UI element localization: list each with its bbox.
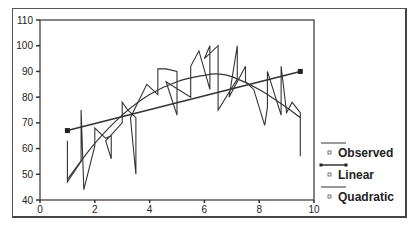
linear-marker <box>65 128 70 133</box>
x-tick-label: 8 <box>256 204 262 215</box>
chart-plot: 4050607080901001100246810 ObservedLinear… <box>0 0 412 229</box>
legend-label: Observed <box>338 146 393 160</box>
legend-item-linear: Linear <box>320 164 375 183</box>
x-tick-label: 10 <box>308 204 320 215</box>
x-tick-label: 0 <box>37 204 43 215</box>
legend-marker-icon <box>320 164 323 167</box>
legend-marker-icon <box>345 164 348 167</box>
legend-item-observed: Observed <box>321 143 393 160</box>
x-tick-label: 2 <box>92 204 98 215</box>
y-tick-label: 70 <box>22 117 34 128</box>
legend-label: Linear <box>338 168 374 182</box>
y-tick-label: 100 <box>16 40 33 51</box>
x-tick-label: 4 <box>147 204 153 215</box>
x-tick-label: 6 <box>202 204 208 215</box>
legend-label: Quadratic <box>338 190 394 204</box>
y-tick-label: 60 <box>22 143 34 154</box>
y-tick-label: 90 <box>22 66 34 77</box>
legend: ObservedLinearQuadratic <box>320 143 395 204</box>
linear-marker <box>298 69 303 74</box>
legend-bullet-icon <box>328 173 331 176</box>
series-group <box>65 46 303 190</box>
y-tick-label: 50 <box>22 169 34 180</box>
legend-bullet-icon <box>328 151 331 154</box>
series-quadratic <box>67 74 300 180</box>
y-tick-label: 40 <box>22 195 34 206</box>
series-observed <box>67 46 300 190</box>
legend-item-quadratic: Quadratic <box>321 187 394 204</box>
y-tick-label: 110 <box>17 15 33 26</box>
y-tick-label: 80 <box>22 92 34 103</box>
axes: 4050607080901001100246810 <box>16 15 320 216</box>
legend-bullet-icon <box>328 195 331 198</box>
